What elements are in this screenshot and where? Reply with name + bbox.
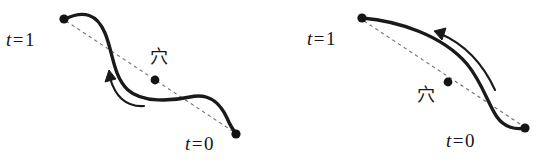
left-t0-label: t=0 [185,134,214,153]
right-t1-value: 1 [326,28,336,49]
left-t1-endpoint-dot [59,14,68,23]
right-hole-label: 穴 [417,86,435,104]
right-t1-operator: = [313,28,326,49]
left-hole-label: 穴 [150,48,168,66]
right-t0-value: 0 [465,130,475,151]
left-t1-label: t=1 [6,30,35,49]
left-panel [59,14,240,138]
left-t1-value: 1 [25,29,35,50]
right-t0-operator: = [452,130,465,151]
right-t1-endpoint-dot [357,13,366,22]
left-t0-var: t [185,133,191,154]
left-t0-operator: = [191,133,204,154]
left-direction-arrow-shaft [110,78,144,106]
figure-container: t=1 穴 t=0 t=1 穴 t=0 [0,0,557,165]
left-direction-arrowhead-icon [105,70,116,82]
left-dashed-chord-line [66,21,234,132]
left-t0-value: 0 [204,133,214,154]
right-hole-point-dot [444,78,453,87]
right-t0-label: t=0 [446,131,475,150]
left-t1-var: t [6,29,12,50]
left-t1-operator: = [12,29,25,50]
right-panel [357,13,529,132]
left-main-curve [65,14,236,133]
right-t0-endpoint-dot [520,123,529,132]
left-t0-endpoint-dot [231,129,240,138]
right-t0-var: t [446,130,452,151]
left-hole-point-dot [151,76,160,85]
right-t1-label: t=1 [307,29,336,48]
right-t1-var: t [307,28,313,49]
